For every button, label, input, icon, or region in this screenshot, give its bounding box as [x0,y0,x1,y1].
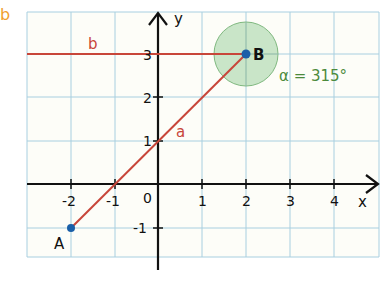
svg-text:4: 4 [330,193,339,209]
svg-text:3: 3 [286,193,295,209]
origin-label: 0 [143,190,152,206]
y-axis-label: y [174,10,183,28]
coordinate-diagram: b b a B A α = 315° y x -2 -1 1 2 3 4 0 3… [0,0,391,282]
point-a [67,224,75,232]
line-a-label: a [176,123,185,141]
task-label: b [0,5,10,24]
point-a-label: A [54,235,65,253]
point-b [242,50,251,59]
angle-label: α = 315° [279,67,347,85]
svg-text:-2: -2 [62,193,76,209]
line-b-label: b [88,35,98,53]
svg-text:-1: -1 [106,193,120,209]
svg-text:-1: -1 [133,220,147,236]
svg-text:1: 1 [198,193,207,209]
x-axis-label: x [358,193,367,211]
svg-text:3: 3 [143,47,152,63]
svg-text:2: 2 [143,90,152,106]
svg-text:1: 1 [143,133,152,149]
point-b-label: B [253,46,264,64]
svg-text:2: 2 [242,193,251,209]
